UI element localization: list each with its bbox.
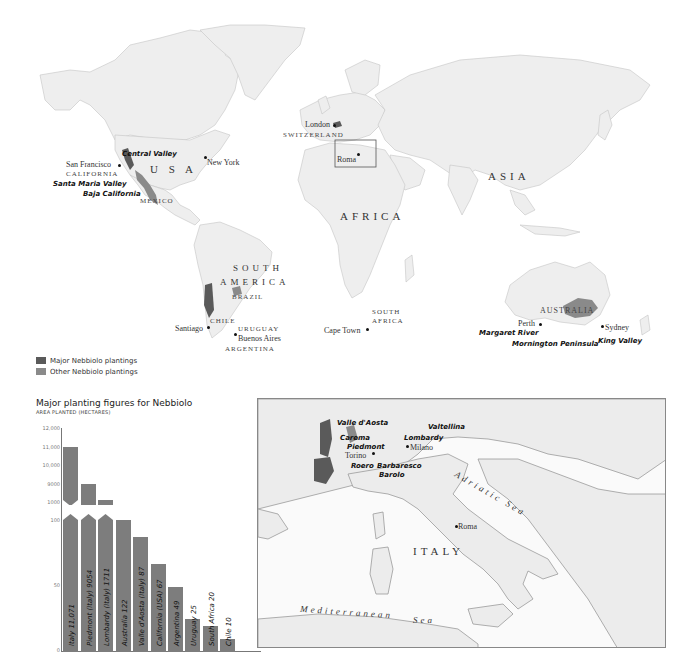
bar-label-chile: Chile 10 [225, 617, 233, 646]
legend-label-major: Major Nebbiolo plantings [50, 357, 137, 365]
bar-piedmont-upper [81, 484, 96, 505]
city-new-york: New York [207, 158, 239, 167]
city-dot [372, 452, 375, 455]
city-dot [333, 124, 336, 127]
city-dot [366, 328, 369, 331]
region-king-valley: King Valley [598, 337, 642, 345]
y-tick: 100 [30, 517, 60, 523]
region-margaret-river: Margaret River [479, 329, 538, 337]
label-switzerland: SWITZERLAND [283, 131, 344, 139]
y-tick: 1000 [30, 499, 60, 505]
legend-item-other: Other Nebbiolo plantings [36, 366, 138, 377]
bar-label-lombardy: Lombardy (Italy) 1711 [103, 568, 111, 646]
city-roma: Roma [458, 522, 477, 531]
bar-label-valle-d-aosta: Valle d'Aosta (Italy) 87 [138, 567, 146, 646]
legend-item-major: Major Nebbiolo plantings [36, 355, 138, 366]
label-south-america-1: SOUTH [233, 263, 283, 273]
city-roma: Roma [337, 155, 356, 164]
bar-label-california: California (USA) 67 [156, 579, 164, 646]
bar-chart: 12,000 11,000 10,000 9000 1000 100 50 0 … [30, 420, 255, 660]
city-london: London [305, 120, 330, 129]
y-tick: 12,000 [30, 425, 60, 431]
y-tick: 10,000 [30, 462, 60, 468]
legend-swatch-other [36, 368, 46, 375]
y-tick: 0 [30, 647, 60, 653]
bar-label-piedmont: Piedmont (Italy) 9054 [86, 570, 94, 646]
city-santiago: Santiago [175, 324, 203, 333]
label-asia: ASIA [488, 170, 530, 182]
region-lombardy: Lombardy [404, 434, 443, 442]
italy-map: Valle d'Aosta Carema Piedmont Lombardy V… [257, 398, 666, 648]
city-perth: Perth [518, 319, 535, 328]
bar-label-south-africa: South Africa 20 [208, 592, 216, 646]
label-south-africa-1: SOUTH [372, 308, 400, 316]
region-santa-maria-valley: Santa Maria Valley [53, 180, 127, 188]
legend-swatch-major [36, 357, 46, 364]
label-italy: ITALY [413, 545, 464, 557]
region-barolo: Barolo [379, 471, 405, 479]
bar-italy-upper [63, 447, 78, 505]
city-san-francisco: San Francisco [66, 160, 111, 169]
y-tick: 50 [30, 582, 60, 588]
city-dot [601, 325, 604, 328]
bar-label-argentina: Argentina 49 [173, 601, 181, 646]
world-map: U S A SOUTH AMERICA AFRICA ASIA AUSTRALI… [0, 0, 683, 340]
city-dot [406, 445, 409, 448]
label-mediterranean-2: Sea [413, 615, 435, 625]
y-tick: 9000 [30, 481, 60, 487]
label-australia: AUSTRALIA [540, 306, 594, 315]
region-valtellina: Valtellina [428, 423, 465, 431]
bar-label-australia: Australia 122 [121, 599, 129, 646]
label-mexico: MEXICO [140, 197, 174, 205]
region-valle-d-aosta: Valle d'Aosta [337, 419, 388, 427]
city-buenos-aires: Buenos Aires [238, 334, 281, 343]
city-dot [234, 333, 237, 336]
label-california: CALIFORNIA [66, 170, 118, 178]
city-cape-town: Cape Town [324, 326, 360, 335]
chart-subtitle: AREA PLANTED (HECTARES) [36, 409, 111, 415]
label-uruguay: URUGUAY [238, 325, 279, 333]
region-piedmont: Piedmont [347, 443, 385, 451]
label-africa: AFRICA [340, 210, 404, 222]
chart-title: Major planting figures for Nebbiolo [36, 398, 192, 408]
label-usa: U S A [150, 163, 197, 175]
label-brazil: BRAZIL [232, 293, 263, 301]
label-argentina: ARGENTINA [225, 345, 275, 353]
y-axis [61, 428, 62, 652]
region-roero: Roero [351, 462, 374, 470]
y-tick: 11,000 [30, 444, 60, 450]
bar-label-uruguay: Uruguay 25 [190, 605, 198, 646]
region-carema: Carema [340, 434, 370, 442]
region-barbaresco: Barbaresco [377, 462, 422, 470]
bar-label-italy: Italy 11,071 [68, 604, 76, 646]
city-milano: Milano [410, 443, 433, 452]
label-south-america-2: AMERICA [220, 277, 290, 287]
city-torino: Torino [345, 451, 366, 460]
city-dot [118, 164, 121, 167]
city-dot [357, 153, 360, 156]
city-sydney: Sydney [605, 323, 629, 332]
city-dot [207, 326, 210, 329]
region-central-valley: Central Valley [122, 150, 177, 158]
legend-label-other: Other Nebbiolo plantings [50, 368, 138, 376]
map-legend: Major Nebbiolo plantings Other Nebbiolo … [36, 355, 138, 377]
city-dot [539, 323, 542, 326]
region-baja-california: Baja California [83, 190, 141, 198]
label-south-africa-2: AFRICA [372, 317, 404, 325]
bar-lombardy-upper [98, 500, 113, 505]
label-chile: CHILE [210, 317, 236, 325]
region-mornington-peninsula: Mornington Peninsula [512, 340, 599, 348]
